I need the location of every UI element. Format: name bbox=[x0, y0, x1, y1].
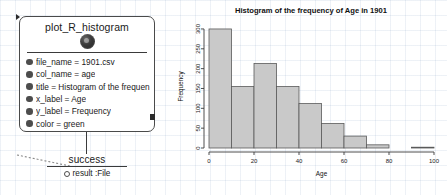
parameter-bullet-icon bbox=[26, 120, 33, 127]
parameter-bullet-icon bbox=[26, 108, 33, 115]
x-axis-tick-label: 20 bbox=[251, 158, 258, 164]
parameter-label: x_label = Age bbox=[36, 94, 86, 104]
node-title: plot_R_histogram bbox=[20, 21, 154, 33]
success-node-divider bbox=[47, 166, 127, 167]
success-node-result-row[interactable]: result :File bbox=[47, 169, 127, 178]
node-icon-container bbox=[20, 34, 154, 49]
parameter-bullet-icon bbox=[26, 83, 33, 90]
node-parameter-y-label[interactable]: y_label = Frequency bbox=[26, 105, 154, 117]
histogram-bar bbox=[209, 29, 232, 148]
node-output-port[interactable] bbox=[150, 114, 155, 120]
y-axis-tick-label: 300 bbox=[195, 23, 201, 34]
histogram-bar bbox=[254, 63, 277, 148]
y-axis-tick-label: 250 bbox=[195, 43, 201, 54]
histogram-bar bbox=[322, 123, 345, 148]
parameter-bullet-icon bbox=[26, 59, 33, 66]
y-axis-tick-label: 50 bbox=[195, 124, 201, 131]
y-axis-title: Frequency bbox=[177, 71, 185, 102]
y-axis-tick-label: 200 bbox=[195, 63, 201, 74]
node-parameter-col-name[interactable]: col_name = age bbox=[26, 68, 154, 80]
node-parameter-color[interactable]: color = green bbox=[26, 117, 154, 129]
x-axis-tick-label: 80 bbox=[386, 158, 393, 164]
x-axis-tick-label: 60 bbox=[341, 158, 348, 164]
connector-wire-vertical bbox=[86, 131, 87, 154]
parameter-label: title = Histogram of the frequen bbox=[36, 82, 150, 92]
workflow-node-plot-r-histogram[interactable]: plot_R_histogram file_name = 1901.csv co… bbox=[19, 16, 155, 132]
x-axis-title: Age bbox=[316, 170, 328, 178]
node-input-port[interactable] bbox=[16, 14, 20, 20]
histogram-bar bbox=[232, 87, 255, 149]
node-parameter-x-label[interactable]: x_label = Age bbox=[26, 93, 154, 105]
node-parameter-file-name[interactable]: file_name = 1901.csv bbox=[26, 56, 154, 68]
success-node-result-label: result :File bbox=[73, 169, 111, 178]
parameter-bullet-icon bbox=[26, 96, 33, 103]
result-bullet-icon bbox=[64, 171, 70, 177]
y-axis-tick-label: 0 bbox=[195, 146, 201, 150]
node-parameter-title[interactable]: title = Histogram of the frequen bbox=[26, 81, 154, 93]
parameter-label: col_name = age bbox=[36, 69, 95, 79]
workflow-node-success[interactable]: success result :File bbox=[47, 154, 127, 178]
histogram-bar bbox=[299, 104, 322, 148]
node-divider bbox=[27, 52, 147, 53]
parameter-label: file_name = 1901.csv bbox=[36, 57, 115, 67]
x-axis-tick-label: 40 bbox=[296, 158, 303, 164]
y-axis-tick-label: 100 bbox=[195, 103, 201, 114]
chart-panel: Histogram of the frequency of Age in 190… bbox=[175, 0, 447, 195]
parameter-label: color = green bbox=[36, 119, 85, 129]
parameter-label: y_label = Frequency bbox=[36, 106, 111, 116]
x-axis-tick-label: 0 bbox=[207, 158, 211, 164]
workflow-panel: plot_R_histogram file_name = 1901.csv co… bbox=[0, 0, 175, 195]
histogram-bar bbox=[367, 145, 390, 148]
histogram-bar bbox=[344, 136, 367, 148]
y-axis-tick-label: 150 bbox=[195, 83, 201, 94]
chart-bars-group bbox=[209, 29, 434, 148]
histogram-bar bbox=[412, 147, 435, 148]
success-node-title: success bbox=[47, 154, 127, 165]
node-parameter-list: file_name = 1901.csv col_name = age titl… bbox=[20, 56, 154, 130]
histogram-bar bbox=[277, 87, 300, 149]
histogram-chart: 050100150200250300020406080100AgeFrequen… bbox=[175, 0, 447, 195]
parameter-bullet-icon bbox=[26, 71, 33, 78]
r-logo-icon bbox=[80, 34, 95, 49]
x-axis-tick-label: 100 bbox=[429, 158, 440, 164]
